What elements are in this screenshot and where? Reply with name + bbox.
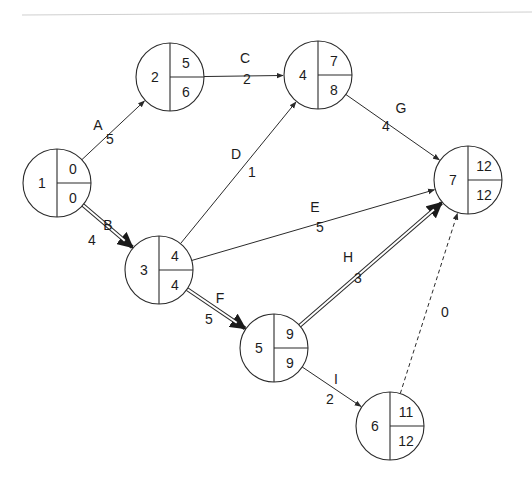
top-rule (22, 12, 532, 15)
activity-label: G (396, 100, 407, 116)
activity-label: I (334, 371, 338, 387)
earliest-time: 11 (399, 404, 414, 420)
earliest-time: 0 (69, 161, 77, 177)
node-number: 1 (38, 175, 46, 191)
activity-label: D (231, 146, 241, 162)
activity-label: C (240, 50, 250, 66)
activity-label: A (93, 117, 103, 133)
earliest-time: 5 (182, 55, 190, 71)
duration-label: 1 (248, 164, 256, 180)
activity-label: H (343, 249, 353, 265)
duration-label: 5 (316, 219, 324, 235)
duration-label: 0 (441, 304, 449, 320)
latest-time: 6 (182, 84, 190, 100)
arrow (180, 102, 295, 244)
node-2: 256 (136, 43, 204, 111)
node-number: 7 (449, 172, 457, 188)
node-5: 599 (240, 314, 308, 382)
activity-label: E (310, 199, 319, 215)
latest-time: 0 (69, 190, 77, 206)
activity-label: B (103, 217, 112, 233)
node-number: 2 (151, 69, 159, 85)
network-diagram: 1002563444785996111271212 A5B4C2D1E5F5G4… (0, 0, 532, 492)
latest-time: 12 (398, 433, 414, 449)
latest-time: 4 (171, 277, 179, 293)
edge-G (346, 94, 439, 159)
node-4: 478 (284, 41, 352, 109)
duration-label: 5 (205, 311, 213, 327)
node-6: 61112 (356, 392, 424, 460)
node-number: 4 (299, 67, 307, 83)
node-3: 344 (125, 236, 193, 304)
earliest-time: 7 (330, 53, 338, 69)
node-number: 3 (140, 262, 148, 278)
latest-time: 9 (286, 355, 294, 371)
edge-D (180, 102, 295, 244)
node-number: 5 (255, 340, 263, 356)
duration-label: 2 (243, 71, 251, 87)
activity-label: F (216, 290, 225, 306)
duration-label: 4 (88, 232, 96, 248)
duration-label: 5 (106, 131, 114, 147)
earliest-time: 4 (171, 248, 179, 264)
node-7: 71212 (434, 146, 502, 214)
duration-label: 3 (354, 270, 362, 286)
earliest-time: 9 (286, 326, 294, 342)
latest-time: 12 (476, 187, 492, 203)
arrow (346, 94, 439, 159)
nodes-layer: 1002563444785996111271212 (23, 41, 502, 460)
node-number: 6 (371, 418, 379, 434)
latest-time: 8 (330, 82, 338, 98)
node-1: 100 (23, 149, 91, 217)
earliest-time: 12 (476, 158, 492, 174)
duration-label: 4 (382, 118, 390, 134)
duration-label: 2 (326, 391, 334, 407)
